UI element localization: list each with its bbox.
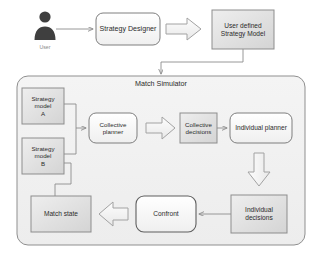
- user-caption: User: [25, 44, 65, 50]
- confront-box[interactable]: [136, 196, 196, 232]
- collective-decisions-box[interactable]: [180, 113, 217, 143]
- diagram-canvas: Strategy Designer User defined Strategy …: [0, 0, 323, 267]
- user-defined-strategy-model-box[interactable]: [212, 10, 274, 49]
- strategy-model-a-box[interactable]: [22, 88, 64, 124]
- diagram-vector-layer: [0, 0, 323, 267]
- strategy-model-b-box[interactable]: [22, 138, 64, 174]
- strategy-designer-box[interactable]: [96, 13, 160, 45]
- block-arrow-designer-to-model: [166, 18, 201, 40]
- user-icon: [35, 11, 56, 40]
- collective-planner-box[interactable]: [89, 113, 137, 143]
- connector-model-to-simulator: [161, 49, 243, 74]
- match-state-box[interactable]: [31, 196, 91, 232]
- individual-planner-box[interactable]: [230, 113, 292, 143]
- individual-decisions-box[interactable]: [231, 195, 287, 233]
